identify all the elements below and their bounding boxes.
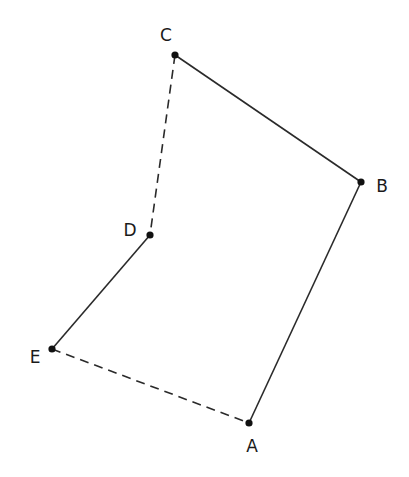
point-e [48,345,55,352]
segment-ea-dashed [52,349,249,423]
point-label-a: A [246,436,258,456]
point-label-d: D [123,220,136,240]
point-c [171,51,178,58]
point-label-c: C [160,25,172,45]
point-d [146,231,153,238]
points-group [48,51,364,426]
segment-ab-solid [249,182,361,423]
point-a [245,419,252,426]
segments-group [52,55,361,423]
point-label-b: B [376,176,388,196]
point-b [357,178,364,185]
segment-bc-solid [175,55,361,182]
segment-cd-dashed [150,55,175,235]
segment-de-solid [52,235,150,349]
diagram-canvas: ABCDE [0,0,409,477]
point-label-e: E [30,347,41,367]
